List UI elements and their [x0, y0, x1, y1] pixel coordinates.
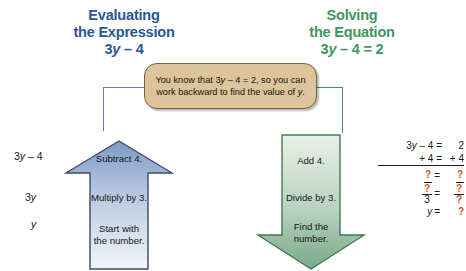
left-value-y: y	[31, 218, 36, 230]
equation-row-divide-three: ? 3 = ? ?	[378, 184, 464, 205]
up-arrow-shape	[64, 139, 174, 271]
equation-row4-lhs-fraction: ? 3	[392, 184, 432, 205]
equation-row-solution: y = ?	[378, 206, 464, 219]
heading-right-line2: the Equation	[262, 24, 442, 41]
connector-line-right	[317, 87, 343, 133]
equation-row5-lhs: y	[392, 206, 432, 219]
heading-evaluating-expression: Evaluating the Expression 3y – 4	[34, 7, 214, 58]
heading-solving-equation: Solving the Equation 3y – 4 = 2	[262, 7, 442, 58]
equation-row3-lhs: ?	[392, 169, 432, 183]
equation-row-add-four: + 4 = + 4	[378, 153, 464, 167]
left-value-3y: 3y	[25, 191, 36, 203]
left-value-3y-minus-4: 3y – 4	[14, 150, 43, 162]
up-arrow-evaluating: Subtract 4. Multiply by 3. Start with th…	[64, 139, 174, 271]
callout-balloon: You know that 3y – 4 = 2, so you can wor…	[144, 63, 317, 109]
down-arrow-shape	[256, 133, 366, 271]
equation-row4-rhs-fraction: ? ?	[442, 184, 464, 205]
callout-text: You know that 3y – 4 = 2, so you can wor…	[145, 74, 316, 98]
equation-work-panel: 3y – 4 = 2 + 4 = + 4 ? = ? ? 3 = ? ?	[378, 140, 464, 218]
equation-row5-equals: =	[432, 206, 442, 219]
fraction-left: ? 3	[422, 184, 432, 205]
equation-row3-rhs: ?	[442, 169, 464, 183]
equation-row1-lhs: 3y – 4 =	[402, 140, 442, 153]
equation-row5-rhs: ?	[442, 206, 464, 219]
equation-row4-equals: =	[432, 188, 442, 201]
equation-row2-lhs: + 4 =	[402, 153, 442, 166]
heading-left-line2: the Expression	[34, 24, 214, 41]
heading-left-expression: 3y – 4	[34, 41, 214, 58]
diagram-canvas: Evaluating the Expression 3y – 4 Solving…	[0, 0, 466, 271]
equation-row-original: 3y – 4 = 2	[378, 140, 464, 153]
heading-left-line1: Evaluating	[34, 7, 214, 24]
equation-row2-rhs: + 4	[442, 153, 464, 166]
equation-row3-equals: =	[432, 170, 442, 183]
connector-line-left	[103, 87, 149, 131]
heading-right-expression: 3y – 4 = 2	[262, 41, 442, 58]
heading-right-line1: Solving	[262, 7, 442, 24]
equation-row-question-equals: ? = ?	[378, 169, 464, 183]
fraction-right: ? ?	[454, 184, 464, 205]
down-arrow-solving: Add 4. Divide by 3. Find the number.	[256, 133, 366, 271]
equation-row1-rhs: 2	[442, 140, 464, 153]
